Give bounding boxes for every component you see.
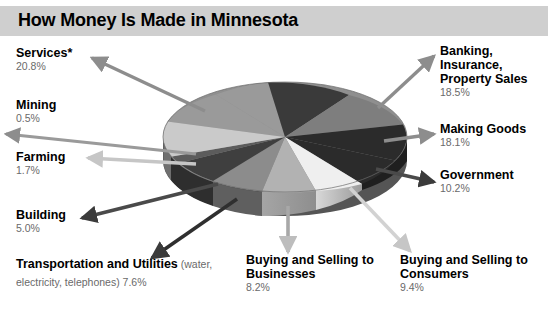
label-government-name: Government (440, 168, 514, 182)
label-government-percent: 10.2% (440, 182, 514, 195)
label-consumers-name: Buying and Selling to Consumers (400, 254, 548, 281)
label-buying-selling-businesses: Buying and Selling to Businesses 8.2% (246, 254, 391, 294)
label-making-goods: Making Goods 18.1% (440, 122, 526, 149)
label-farming: Farming 1.7% (16, 150, 65, 177)
label-farming-name: Farming (16, 150, 65, 164)
label-businesses-percent: 8.2% (246, 281, 391, 294)
label-making-goods-percent: 18.1% (440, 136, 526, 149)
label-transportation-utilities: Transportation and Utilities (water, ele… (16, 254, 216, 290)
label-services-name: Services* (16, 46, 72, 60)
pie-chart: Services* 20.8% Mining 0.5% Farming 1.7%… (0, 36, 548, 315)
label-transportation-name: Transportation and Utilities (16, 257, 178, 271)
label-businesses-name: Buying and Selling to Businesses (246, 254, 391, 281)
label-services-percent: 20.8% (16, 60, 72, 73)
label-mining-name: Mining (16, 98, 56, 112)
label-building-name: Building (16, 208, 66, 222)
label-mining-percent: 0.5% (16, 112, 56, 125)
label-services: Services* 20.8% (16, 46, 72, 73)
label-mining: Mining 0.5% (16, 98, 56, 125)
page-title: How Money Is Made in Minnesota (18, 10, 298, 31)
label-banking-name: Banking, Insurance, Property Sales (440, 44, 548, 86)
label-government: Government 10.2% (440, 168, 514, 195)
label-building-percent: 5.0% (16, 222, 66, 235)
label-banking-insurance-property-sales: Banking, Insurance, Property Sales 18.5% (440, 44, 548, 99)
label-buying-selling-consumers: Buying and Selling to Consumers 9.4% (400, 254, 548, 294)
label-farming-percent: 1.7% (16, 164, 65, 177)
label-making-goods-name: Making Goods (440, 122, 526, 136)
label-building: Building 5.0% (16, 208, 66, 235)
infographic-page: How Money Is Made in Minnesota (0, 0, 548, 315)
label-consumers-percent: 9.4% (400, 281, 548, 294)
label-banking-percent: 18.5% (440, 86, 548, 99)
